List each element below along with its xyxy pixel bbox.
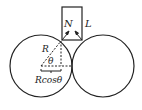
label-N: N	[63, 18, 74, 29]
label-R: R	[41, 44, 49, 54]
physics-diagram: N L R θ Rcosθ	[0, 0, 142, 110]
label-theta: θ	[48, 56, 54, 66]
label-L: L	[84, 18, 92, 29]
right-cylinder	[72, 35, 134, 97]
label-Rcos-theta: Rcosθ	[34, 75, 63, 85]
brace	[41, 69, 61, 73]
